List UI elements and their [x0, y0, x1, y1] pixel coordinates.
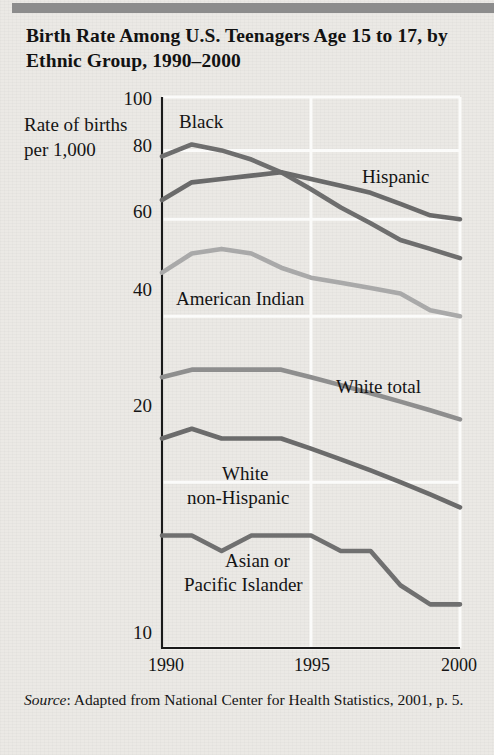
- y-tick-10: 10: [106, 622, 152, 644]
- source-label: Source: [24, 691, 66, 708]
- series-label-asian-2: Pacific Islander: [184, 573, 303, 596]
- y-tick-60: 60: [106, 201, 152, 223]
- series-label-black: Black: [179, 110, 223, 133]
- y-tick-20: 20: [106, 395, 152, 417]
- series-label-american-indian: American Indian: [176, 287, 304, 310]
- x-tick-1995: 1995: [272, 655, 352, 676]
- line-chart: 100 80 60 40 20 10 Rate of births per 1,…: [0, 0, 494, 755]
- series-label-asian-1: Asian or: [225, 549, 290, 572]
- y-axis-title: Rate of births per 1,000: [24, 113, 144, 162]
- y-tick-100: 100: [106, 88, 152, 110]
- series-label-white-non-hispanic-2: non-Hispanic: [187, 486, 289, 509]
- x-tick-2000: 2000: [419, 655, 494, 676]
- x-tick-1990: 1990: [126, 655, 206, 676]
- source-text: : Adapted from National Center for Healt…: [66, 691, 463, 708]
- series-label-white-non-hispanic-1: White: [222, 462, 268, 485]
- y-tick-40: 40: [106, 279, 152, 301]
- series-label-white-total: White total: [336, 375, 421, 398]
- series-label-hispanic: Hispanic: [362, 165, 430, 188]
- source-caption: Source: Adapted from National Center for…: [24, 690, 470, 711]
